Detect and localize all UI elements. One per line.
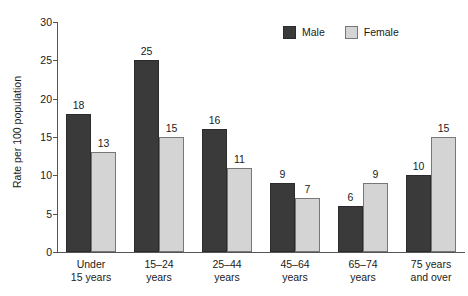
bar-value-label: 11 <box>221 154 258 165</box>
legend-label-female: Female <box>364 26 399 39</box>
x-category-label: 65–74years <box>329 258 397 284</box>
x-category-label: 45–64years <box>261 258 329 284</box>
bar-female[interactable] <box>431 137 456 252</box>
bar-group: 69 <box>338 22 388 252</box>
y-tick-label: 10 <box>22 170 52 180</box>
chart-legend: Male Female <box>283 26 399 39</box>
bar-female[interactable] <box>363 183 388 252</box>
bar-value-label: 13 <box>85 138 122 149</box>
bar-female[interactable] <box>295 198 320 252</box>
bar-value-label: 15 <box>425 123 462 134</box>
bar-male[interactable] <box>202 129 227 252</box>
bar-male[interactable] <box>66 114 91 252</box>
bar-value-label: 9 <box>264 169 301 180</box>
plot-area: 18132515161197691015 <box>57 22 465 252</box>
y-tick-label: 5 <box>22 209 52 219</box>
x-category-label: 15–24years <box>125 258 193 284</box>
x-category-label: 25–44years <box>193 258 261 284</box>
bar-group: 2515 <box>134 22 184 252</box>
legend-item-male[interactable]: Male <box>283 26 325 39</box>
y-tick-mark <box>53 252 58 253</box>
bar-value-label: 18 <box>60 100 97 111</box>
bar-value-label: 16 <box>196 115 233 126</box>
legend-item-female[interactable]: Female <box>345 26 399 39</box>
bar-female[interactable] <box>227 168 252 252</box>
legend-swatch-male-icon <box>283 26 296 39</box>
bar-male[interactable] <box>338 206 363 252</box>
y-tick-label: 25 <box>22 55 52 65</box>
legend-label-male: Male <box>302 26 325 39</box>
bar-female[interactable] <box>159 137 184 252</box>
y-tick-label: 0 <box>22 247 52 257</box>
legend-swatch-female-icon <box>345 26 358 39</box>
bar-female[interactable] <box>91 152 116 252</box>
y-tick-label: 20 <box>22 94 52 104</box>
bar-value-label: 9 <box>357 169 394 180</box>
bar-group: 1813 <box>66 22 116 252</box>
x-axis-line <box>57 252 465 253</box>
bar-male[interactable] <box>134 60 159 252</box>
y-tick-label: 30 <box>22 17 52 27</box>
bar-value-label: 15 <box>153 123 190 134</box>
x-category-label: 75 yearsand over <box>397 258 465 284</box>
bar-group: 1611 <box>202 22 252 252</box>
bar-value-label: 25 <box>128 46 165 57</box>
y-tick-label: 15 <box>22 132 52 142</box>
bar-value-label: 7 <box>289 184 326 195</box>
bar-group: 97 <box>270 22 320 252</box>
bar-chart: Rate per 100 population 051015202530 181… <box>0 0 468 296</box>
bar-male[interactable] <box>406 175 431 252</box>
x-category-label: Under15 years <box>57 258 125 284</box>
bar-group: 1015 <box>406 22 456 252</box>
